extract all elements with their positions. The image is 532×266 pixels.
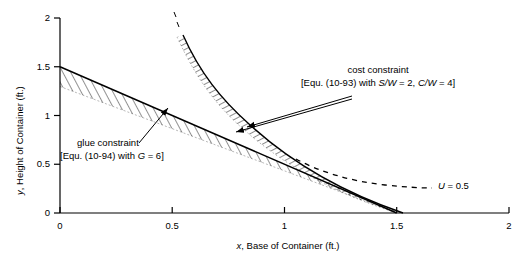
glue-constraint-annotation: glue constraint [Equ. (10-94) with G = 6… — [60, 137, 164, 162]
x-tick-label-0_5: 0.5 — [166, 220, 179, 233]
cost-constraint-hatch — [177, 35, 403, 213]
chart-canvas — [0, 0, 532, 266]
design-constraint-chart: 2 1.5 1 0.5 0 0 0.5 1 1.5 2 y, Height of… — [0, 0, 532, 266]
cost-constraint-leader — [247, 96, 352, 127]
y-tick-label-0: 0 — [26, 207, 50, 220]
y-axis-title: y, Height of Container (ft.) — [14, 86, 27, 195]
x-tick-label-1: 1 — [282, 220, 287, 233]
cost-constraint-curve — [183, 35, 403, 213]
y-tick-label-1: 1 — [26, 110, 50, 123]
glue-constraint-equation: [Equ. (10-94) with G = 6] — [60, 150, 164, 163]
x-axis-title: x, Base of Container (ft.) — [237, 240, 340, 253]
cost-constraint-equation: [Equ. (10-93) with S/W = 2, C/W = 4] — [301, 77, 455, 90]
y-axis-ticks — [54, 18, 60, 213]
cost-constraint-title: cost constraint — [301, 64, 455, 77]
x-tick-label-1_5: 1.5 — [390, 220, 403, 233]
y-axis-title-text: , Height of Container (ft.) — [14, 86, 25, 190]
x-axis-title-text: , Base of Container (ft.) — [241, 240, 339, 251]
cost-constraint-leader-secondary — [236, 99, 352, 132]
cost-constraint-annotation: cost constraint [Equ. (10-93) with S/W =… — [301, 64, 455, 89]
utility-contour-label: U = 0.5 — [438, 180, 469, 193]
x-tick-label-0: 0 — [57, 220, 62, 233]
y-tick-label-2: 2 — [26, 12, 50, 25]
cost-curve-tail-dashes — [174, 12, 179, 27]
glue-constraint-title: glue constraint — [60, 137, 164, 150]
x-tick-label-2: 2 — [506, 220, 511, 233]
x-axis-ticks — [60, 207, 509, 213]
y-tick-label-1_5: 1.5 — [16, 61, 50, 74]
